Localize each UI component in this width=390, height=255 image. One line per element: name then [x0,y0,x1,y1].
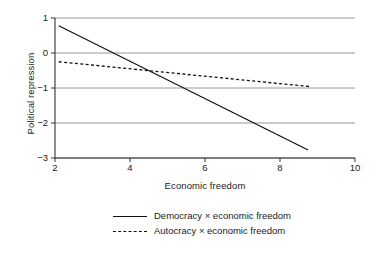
x-tick-label: 2 [43,163,67,173]
x-tick-label: 6 [193,163,217,173]
y-tick-label: −1 [22,83,48,93]
legend-label: Autocracy × economic freedom [154,225,285,236]
legend-item-democracy: Democracy × economic freedom [0,208,390,223]
series-line-autocracy [59,62,310,87]
legend-line-solid-icon [113,211,147,221]
legend-label: Democracy × economic freedom [154,210,291,221]
x-tick-label: 10 [343,163,367,173]
x-tick-label: 4 [118,163,142,173]
chart-figure: Political repression 1 0 −1 −2 −3 2 4 6 … [0,0,390,255]
x-axis-title: Economic freedom [55,180,355,191]
y-tick-label: −3 [22,153,48,163]
chart-legend: Democracy × economic freedom Autocracy ×… [0,208,390,238]
legend-line-dashed-icon [113,226,147,236]
y-tick-label: −2 [22,118,48,128]
x-tick-label: 8 [268,163,292,173]
y-tick-label: 0 [22,48,48,58]
legend-item-autocracy: Autocracy × economic freedom [0,223,390,238]
y-tick-label: 1 [22,13,48,23]
